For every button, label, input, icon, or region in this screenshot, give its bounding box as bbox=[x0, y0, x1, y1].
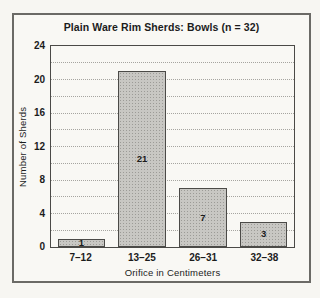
bar-value-label: 7 bbox=[180, 213, 225, 223]
bar-value-label: 21 bbox=[119, 154, 164, 164]
x-tick-label: 26–31 bbox=[173, 252, 234, 265]
y-tick-label: 16 bbox=[17, 108, 45, 118]
x-tick-label: 13–25 bbox=[111, 252, 172, 265]
x-tick-label: 7–12 bbox=[50, 252, 111, 265]
bar-32–38: 3 bbox=[240, 222, 287, 247]
x-tick-labels: 7–1213–2526–3132–38 bbox=[50, 252, 295, 265]
y-tick-label: 12 bbox=[17, 142, 45, 152]
bars-layer: 12173 bbox=[51, 46, 294, 247]
y-tick-label: 0 bbox=[17, 242, 45, 252]
bar-value-label: 1 bbox=[59, 238, 104, 248]
bar-slot: 3 bbox=[233, 46, 294, 247]
y-tick-label: 8 bbox=[17, 175, 45, 185]
x-axis-title: Orifice in Centimeters bbox=[50, 267, 295, 278]
bar-slot: 21 bbox=[112, 46, 173, 247]
bar-value-label: 3 bbox=[241, 230, 286, 240]
y-tick-label: 24 bbox=[17, 41, 45, 51]
bar-13–25: 21 bbox=[118, 71, 165, 247]
bar-7–12: 1 bbox=[58, 239, 105, 247]
y-tick-label: 20 bbox=[17, 75, 45, 85]
chart-outer-frame: Plain Ware Rim Sherds: Bowls (n = 32) Nu… bbox=[12, 13, 311, 283]
chart-title: Plain Ware Rim Sherds: Bowls (n = 32) bbox=[14, 21, 309, 33]
y-tick-label: 4 bbox=[17, 209, 45, 219]
bar-slot: 1 bbox=[51, 46, 112, 247]
bar-26–31: 7 bbox=[179, 188, 226, 247]
plot-area: 04812162024 12173 bbox=[50, 45, 295, 248]
x-tick-label: 32–38 bbox=[234, 252, 295, 265]
bar-slot: 7 bbox=[173, 46, 234, 247]
